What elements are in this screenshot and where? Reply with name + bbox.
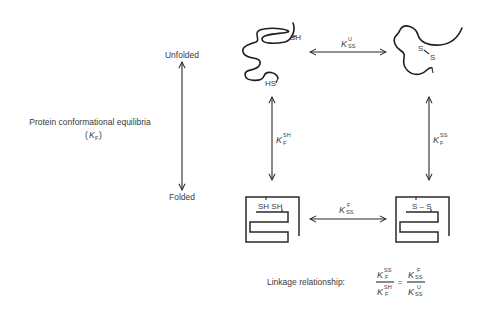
svg-text:K: K bbox=[408, 270, 415, 280]
folded-ss-label: S – S bbox=[412, 202, 432, 211]
thiol-bond-bottom bbox=[276, 78, 278, 83]
rhs-denominator: K U SS bbox=[408, 284, 423, 297]
svg-text:K: K bbox=[377, 270, 384, 280]
svg-text:SS: SS bbox=[346, 209, 354, 215]
svg-text:F: F bbox=[417, 267, 421, 273]
svg-text:K: K bbox=[341, 39, 348, 49]
linkage-equation: K SS F K SH F = K F SS K U SS bbox=[376, 267, 425, 297]
svg-text:SH: SH bbox=[283, 132, 291, 138]
svg-text:F: F bbox=[440, 140, 444, 146]
lhs-numerator: K SS F bbox=[377, 267, 392, 280]
svg-text:(: ( bbox=[85, 130, 88, 140]
k-ss-unfolded-label: K U SS bbox=[341, 36, 356, 49]
svg-text:SS: SS bbox=[440, 132, 448, 138]
svg-text:F: F bbox=[385, 274, 389, 280]
linkage-diagram: Unfolded Folded Protein conformational e… bbox=[0, 0, 483, 312]
svg-text:SH: SH bbox=[384, 284, 392, 290]
lhs-denominator: K SH F bbox=[377, 284, 392, 297]
sulfur-2-label: S bbox=[430, 53, 435, 62]
svg-text:K: K bbox=[276, 135, 283, 145]
unfolded-oxidized-protein: S S bbox=[394, 26, 462, 74]
unfolded-chain-oxidized bbox=[394, 26, 462, 74]
svg-text:K: K bbox=[433, 135, 440, 145]
svg-text:SS: SS bbox=[415, 274, 423, 280]
folded-oxidized-protein: S – S bbox=[396, 197, 449, 242]
svg-text:U: U bbox=[417, 284, 421, 290]
k-ss-folded-label: K F SS bbox=[339, 202, 354, 215]
sulfur-1-label: S bbox=[418, 44, 423, 53]
folded-reduced-protein: SH SH bbox=[246, 197, 299, 242]
unfolded-label: Unfolded bbox=[165, 50, 199, 60]
folded-label: Folded bbox=[169, 192, 195, 202]
svg-text:F: F bbox=[385, 291, 389, 297]
side-label: Protein conformational equilibria bbox=[29, 117, 151, 127]
k-f-ss-label: K SS F bbox=[433, 132, 448, 146]
svg-text:K: K bbox=[339, 205, 346, 215]
disulfide-bond bbox=[424, 50, 429, 54]
linkage-label: Linkage relationship: bbox=[267, 277, 345, 287]
equals-sign: = bbox=[398, 279, 402, 286]
disulfide-tail bbox=[432, 68, 433, 73]
svg-text:SS: SS bbox=[348, 43, 356, 49]
svg-text:K: K bbox=[408, 287, 415, 297]
unfolded-chain bbox=[243, 23, 294, 80]
svg-text:SS: SS bbox=[415, 291, 423, 297]
svg-text:SS: SS bbox=[384, 267, 392, 273]
svg-text:U: U bbox=[348, 36, 352, 42]
thiol-sh-label: SH bbox=[290, 33, 301, 42]
rhs-numerator: K F SS bbox=[408, 267, 423, 280]
folded-sh-label: SH SH bbox=[258, 202, 283, 211]
k-f-sh-label: K SH F bbox=[276, 132, 291, 146]
k-f-symbol: ( K F ) bbox=[85, 130, 102, 141]
unfolded-reduced-protein: SH HS bbox=[243, 23, 302, 88]
svg-text:F: F bbox=[283, 140, 287, 146]
svg-text:F: F bbox=[347, 202, 351, 208]
thiol-hs-label: HS bbox=[265, 79, 276, 88]
svg-text:): ) bbox=[99, 130, 102, 140]
svg-text:K: K bbox=[377, 287, 384, 297]
